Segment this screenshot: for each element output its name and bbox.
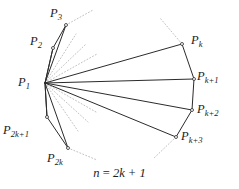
vertex-marker-p3 — [65, 24, 68, 27]
label-subscript: k+2 — [205, 108, 219, 118]
vertex-label-pk+3: Pk+3 — [181, 130, 203, 144]
label-subscript: 2 — [38, 40, 42, 50]
label-subscript: 3 — [58, 12, 62, 22]
vertex-markers — [46, 24, 196, 150]
label-base: P — [197, 69, 205, 83]
caption-expression: 2k + 1 — [113, 166, 146, 180]
label-base: P — [191, 33, 199, 47]
polygon-edge — [182, 44, 194, 79]
solid-spoke — [45, 83, 68, 148]
vertex-marker-p2 — [52, 47, 55, 50]
vertex-label-p3: P3 — [50, 7, 62, 21]
vertex-marker-pk — [181, 43, 184, 46]
label-base: P — [30, 34, 38, 48]
solid-spoke — [45, 83, 192, 110]
vertex-label-pk: Pk — [191, 34, 203, 48]
vertex-marker-p2k+1 — [46, 116, 49, 119]
figure-canvas — [0, 0, 239, 189]
vertex-label-pk+1: Pk+1 — [197, 70, 219, 84]
label-subscript: k+1 — [205, 75, 219, 85]
polygon-edge — [47, 117, 68, 148]
label-subscript: k+3 — [189, 135, 203, 145]
dotted-boundary-segment — [153, 137, 176, 159]
label-base: P — [18, 75, 26, 89]
caption-equals: = — [100, 166, 113, 180]
dotted-boundary-lines — [66, 10, 182, 160]
label-base: P — [3, 123, 11, 137]
polygon-edge — [192, 79, 194, 110]
vertex-marker-pk+1 — [193, 78, 196, 81]
polygon-figure: P3P2P1P2k+1P2kPkPk+1Pk+2Pk+3 n = 2k + 1 — [0, 0, 239, 189]
solid-spoke — [45, 83, 176, 137]
label-base: P — [197, 102, 205, 116]
solid-spoke — [45, 79, 194, 83]
vertex-label-p2: P2 — [30, 35, 42, 49]
label-subscript: k — [199, 39, 203, 49]
label-base: P — [47, 151, 55, 165]
label-base: P — [181, 129, 189, 143]
vertex-label-p2k+1: P2k+1 — [3, 124, 29, 138]
dotted-boundary-segment — [68, 148, 97, 160]
vertex-marker-p2k — [67, 147, 70, 150]
vertex-label-p1: P1 — [18, 76, 30, 90]
dotted-boundary-segment — [66, 10, 93, 25]
polygon-edge — [53, 25, 66, 48]
vertex-label-p2k: P2k — [47, 152, 63, 166]
dotted-boundary-segment — [160, 18, 182, 44]
solid-spoke — [45, 25, 66, 83]
vertex-marker-pk+3 — [175, 136, 178, 139]
label-subscript: 2k+1 — [11, 129, 29, 139]
solid-spoke-lines — [45, 25, 194, 148]
solid-boundary-lines — [45, 25, 194, 148]
label-subscript: 1 — [26, 81, 30, 91]
figure-caption: n = 2k + 1 — [0, 166, 239, 181]
vertex-label-pk+2: Pk+2 — [197, 103, 219, 117]
label-base: P — [50, 6, 58, 20]
vertex-marker-pk+2 — [191, 109, 194, 112]
